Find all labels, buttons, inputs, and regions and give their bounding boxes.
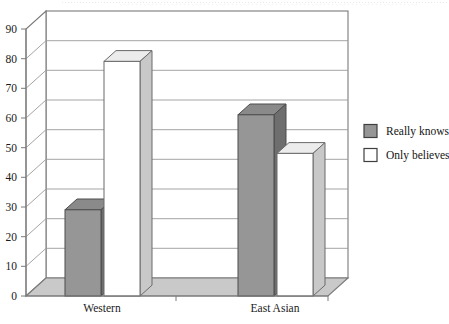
y-tick-label-80: 80 (6, 53, 18, 65)
y-tick-label-30: 30 (6, 201, 18, 213)
legend-swatch-really-knows (364, 125, 377, 138)
y-tick-label-90: 90 (6, 23, 18, 35)
category-label-east-asian: East Asian (251, 302, 300, 314)
legend-label-only-believes: Only believes (386, 149, 449, 162)
bar-front-face (65, 210, 101, 296)
y-tick-label-70: 70 (6, 82, 18, 94)
y-tick-label-60: 60 (6, 112, 18, 124)
y-tick-label-20: 20 (6, 231, 18, 243)
plot-area (21, 11, 348, 301)
bar-side-face (140, 51, 152, 296)
bar-front-face (104, 61, 140, 296)
chart-legend: Really knows Only believes (364, 125, 449, 163)
x-axis-category-labels: Western East Asian (83, 302, 299, 314)
category-label-western: Western (83, 302, 121, 314)
y-axis-ticks (21, 29, 26, 296)
bar-chart-figure: 90 80 70 60 50 40 30 20 10 0 Western Eas… (0, 0, 449, 324)
bar-front-face (277, 153, 313, 296)
plot-left-wall (26, 11, 46, 296)
legend-item-really-knows[interactable]: Really knows (364, 125, 449, 139)
bar-side-face (313, 143, 325, 296)
y-tick-label-0: 0 (11, 290, 17, 302)
legend-swatch-only-believes (364, 149, 377, 162)
legend-label-really-knows: Really knows (386, 125, 449, 138)
bar-western-only-believes[interactable] (104, 51, 152, 296)
y-axis-tick-labels: 90 80 70 60 50 40 30 20 10 0 (6, 23, 18, 302)
legend-item-only-believes[interactable]: Only believes (364, 149, 449, 163)
chart-canvas: 90 80 70 60 50 40 30 20 10 0 Western Eas… (0, 0, 449, 324)
bar-eastasian-only-believes[interactable] (277, 143, 325, 296)
y-tick-label-10: 10 (6, 260, 18, 272)
y-tick-label-40: 40 (6, 171, 18, 183)
y-tick-label-50: 50 (6, 142, 18, 154)
scan-artifact (62, 3, 447, 5)
bar-front-face (238, 115, 274, 296)
